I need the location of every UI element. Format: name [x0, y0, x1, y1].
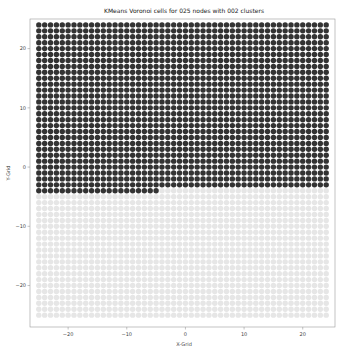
svg-text:−10: −10	[15, 223, 26, 229]
y-axis-label: Y-Grid	[5, 166, 11, 182]
voronoi-scatter-chart: KMeans Voronoi cells for 025 nodes with …	[0, 0, 351, 356]
y-axis-ticks: −20−1001020	[15, 45, 30, 288]
svg-text:−10: −10	[121, 331, 132, 337]
chart-title: KMeans Voronoi cells for 025 nodes with …	[104, 7, 264, 14]
scatter-points	[36, 22, 329, 318]
svg-text:10: 10	[241, 331, 247, 337]
svg-text:20: 20	[20, 45, 26, 51]
svg-text:0: 0	[23, 164, 26, 170]
x-axis-ticks: −20−1001020	[63, 327, 306, 337]
svg-text:−20: −20	[63, 331, 74, 337]
svg-text:10: 10	[20, 105, 26, 111]
svg-text:−20: −20	[15, 282, 26, 288]
svg-text:20: 20	[300, 331, 306, 337]
x-axis-label: X-Grid	[176, 341, 192, 347]
svg-text:0: 0	[184, 331, 187, 337]
